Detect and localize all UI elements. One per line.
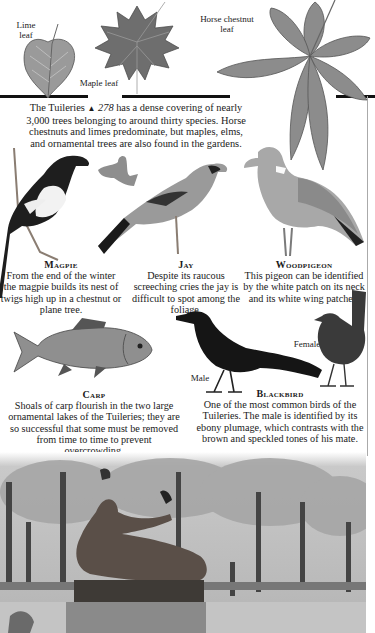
maple-leaf-label: Maple leaf bbox=[74, 78, 124, 88]
jay-text: Despite its raucous screeching cries the… bbox=[132, 270, 240, 315]
blackbird-text: One of the most common birds of the Tuil… bbox=[197, 399, 364, 444]
woodpigeon-illustration bbox=[238, 144, 370, 256]
carp-title: Carp bbox=[8, 389, 180, 400]
lime-leaf-illustration bbox=[18, 22, 78, 100]
magpie-caption: Magpie From the end of the winter the ma… bbox=[0, 259, 122, 315]
jay-illustration bbox=[96, 154, 232, 256]
tuileries-sculpture-photo bbox=[0, 452, 366, 633]
page-reference[interactable]: 278 bbox=[95, 102, 113, 113]
magpie-text: From the end of the winter the magpie bu… bbox=[1, 270, 122, 315]
carp-illustration bbox=[10, 316, 154, 380]
intro-paragraph: The Tuileries ▲ 278 has a dense covering… bbox=[22, 102, 250, 149]
carp-text: Shoals of carp flourish in the two large… bbox=[8, 400, 179, 456]
carp-caption: Carp Shoals of carp flourish in the two … bbox=[8, 389, 180, 456]
blackbird-title: Blackbird bbox=[192, 388, 368, 399]
woodpigeon-title: Woodpigeon bbox=[243, 259, 365, 270]
blackbird-caption: Blackbird One of the most common birds o… bbox=[192, 388, 368, 444]
jay-caption: Jay Despite its raucous screeching cries… bbox=[125, 259, 247, 315]
jay-title: Jay bbox=[125, 259, 247, 270]
blackbird-female-illustration bbox=[312, 290, 372, 390]
blackbird-male-label: Male bbox=[185, 373, 215, 383]
intro-text-start: The Tuileries bbox=[30, 102, 88, 113]
magpie-title: Magpie bbox=[0, 259, 122, 270]
